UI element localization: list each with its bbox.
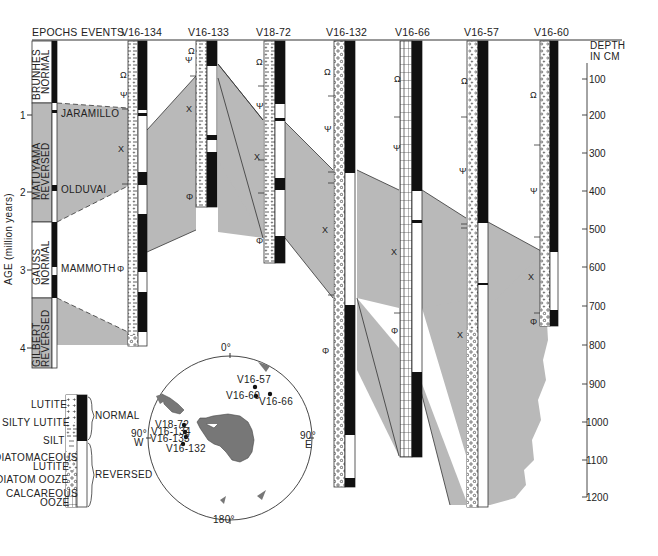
depth-tick-1000: 1000 [586, 417, 609, 428]
epoch-column: BRUNHES NORMAL MATUYAMA REVERSED GAUSS N… [31, 41, 57, 368]
event-olduvai: OLDUVAI [61, 184, 106, 195]
core-label-v16-57: V16-57 [464, 26, 499, 38]
map-label-0: 0° [221, 342, 231, 353]
depth-tick-700: 700 [589, 301, 606, 312]
psi-icon: Ψ [185, 55, 193, 65]
epoch-gilbert-line2: REVERSED [40, 310, 51, 367]
depth-tick-800: 800 [589, 340, 606, 351]
omega-icon: Ω [120, 70, 127, 80]
core-label-v16-60: V16-60 [534, 26, 569, 38]
age-tick-2: 2 [20, 187, 26, 198]
psi-icon: Ψ [256, 101, 264, 111]
legend-silt: SILT [43, 435, 65, 446]
psi-icon: Ψ [393, 143, 401, 153]
core-v16-66 [400, 41, 422, 457]
legend: LUTITE SILTY LUTITE SILT DIATOMACEOUS LU… [0, 395, 152, 508]
phi-icon: Φ [391, 326, 398, 336]
core-v16-57 [467, 41, 488, 507]
core-v16-134 [128, 41, 147, 346]
depth-tick-1200: 1200 [586, 492, 609, 503]
map-label-w: W [134, 437, 144, 448]
age-tick-4: 4 [20, 343, 26, 354]
depth-header-line2: IN CM [590, 51, 620, 62]
omega-icon: Ω [394, 74, 401, 84]
epoch-matuyama-line2: REVERSED [40, 143, 51, 200]
cross-icon: X [528, 272, 534, 282]
phi-icon: Φ [256, 236, 263, 246]
depth-axis: 100 200 300 400 500 600 700 800 900 1000… [582, 63, 609, 503]
omega-icon: Ω [530, 90, 537, 100]
core-label-v16-132: V16-132 [326, 26, 367, 38]
psi-icon: Ψ [459, 166, 467, 176]
phi-icon: Φ [186, 192, 193, 202]
phi-icon: Φ [322, 346, 329, 356]
psi-icon: Ψ [324, 124, 332, 134]
station-v16-57: V16-57 [237, 374, 271, 385]
core-v18-72 [264, 41, 285, 263]
core-label-v16-134: V16-134 [121, 26, 162, 38]
age-tick-1: 1 [20, 110, 26, 121]
core-label-v16-133: V16-133 [188, 26, 229, 38]
event-mammoth: MAMMOTH [61, 263, 116, 274]
core-label-v18-72: V18-72 [256, 26, 291, 38]
cross-icon: X [322, 225, 328, 235]
omega-icon: Ω [256, 57, 263, 67]
legend-reversed: REVERSED [95, 469, 152, 480]
map-label-180: 180° [213, 514, 235, 525]
core-v16-132 [334, 41, 355, 487]
core-label-v16-66: V16-66 [395, 26, 430, 38]
cross-icon: X [186, 104, 192, 114]
events-header: EVENTS [81, 26, 124, 38]
paleomagnetic-correlation-diagram: + + + [0, 0, 658, 556]
depth-tick-200: 200 [589, 110, 606, 121]
cross-icon: X [118, 144, 124, 154]
legend-diatomaceous-lutite: LUTITE [33, 461, 69, 472]
depth-header-line1: DEPTH [590, 40, 625, 51]
legend-normal: NORMAL [95, 410, 140, 421]
depth-tick-900: 900 [589, 379, 606, 390]
epochs-header: EPOCHS [32, 26, 78, 38]
depth-tick-500: 500 [589, 224, 606, 235]
station-v16-60: V16-60 [226, 390, 260, 401]
depth-tick-600: 600 [589, 262, 606, 273]
event-jaramillo: JARAMILLO [61, 108, 119, 119]
station-v16-132: V16-132 [166, 443, 206, 454]
depth-tick-400: 400 [589, 186, 606, 197]
depth-tick-1100: 1100 [586, 455, 608, 466]
depth-tick-100: 100 [589, 74, 606, 85]
legend-calcareous-ooze: OOZE [40, 497, 70, 508]
legend-diatom-ooze: DIATOM OOZE [0, 474, 68, 485]
cross-icon: X [457, 330, 463, 340]
epoch-gauss-line2: NORMAL [40, 240, 51, 285]
cross-icon: X [391, 247, 397, 257]
age-axis-label: AGE (million years) [3, 193, 14, 285]
phi-icon: Φ [530, 317, 537, 327]
map-label-e: E [305, 439, 312, 450]
core-v16-133 [196, 41, 217, 207]
core-v16-60 [540, 41, 558, 326]
depth-tick-300: 300 [589, 148, 606, 159]
age-tick-3: 3 [20, 265, 26, 276]
psi-icon: Ψ [120, 90, 128, 100]
epoch-brunhes-line2: NORMAL [40, 49, 51, 94]
omega-icon: Ω [324, 67, 331, 77]
location-map: 0° 90° W 90° E 180° V16-57 V16-60 V16-66… [131, 342, 316, 525]
legend-lutite: LUTITE [31, 399, 67, 410]
phi-icon: Φ [117, 264, 124, 274]
age-axis: AGE (million years) 1 2 3 4 [3, 110, 32, 354]
station-v16-66: V16-66 [259, 396, 293, 407]
psi-icon: Ψ [530, 186, 538, 196]
legend-silty-lutite: SILTY LUTITE [2, 417, 70, 428]
cross-icon: X [254, 152, 260, 162]
omega-icon: Ω [461, 76, 468, 86]
